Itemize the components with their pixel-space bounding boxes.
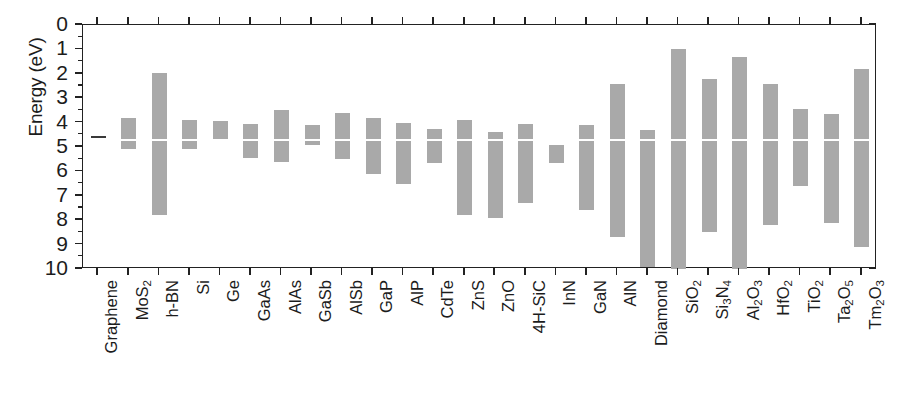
x-tick-mark-top	[219, 17, 221, 24]
y-tick-label: 8	[28, 208, 68, 229]
x-axis-label-diamond: Diamond	[653, 280, 670, 346]
x-tick-mark-top	[96, 17, 98, 24]
reference-line-segment	[457, 139, 472, 141]
x-tick-mark	[219, 268, 221, 275]
bar-gasb	[305, 125, 320, 145]
reference-line-segment	[274, 139, 289, 141]
x-axis-label-sio2: SiO2	[684, 280, 701, 314]
x-axis-label-tio2: TiO2	[806, 280, 823, 312]
bar-al2o3	[732, 57, 747, 269]
x-tick-mark	[768, 268, 770, 275]
reference-line-segment	[366, 139, 381, 141]
y-tick-mark	[75, 145, 82, 147]
x-tick-mark	[616, 268, 618, 275]
bar-alas	[274, 110, 289, 161]
x-axis-label-al2o3: Al2O3	[745, 280, 762, 320]
bar-tm2o3	[854, 69, 869, 247]
x-tick-mark	[493, 268, 495, 275]
x-tick-mark	[127, 268, 129, 275]
y-axis-title: Energy (eV)	[25, 0, 47, 187]
x-axis-label-ge: Ge	[225, 280, 242, 302]
x-tick-mark	[96, 268, 98, 275]
reference-line-segment	[518, 139, 533, 141]
x-tick-mark	[249, 268, 251, 275]
x-tick-mark-top	[249, 17, 251, 24]
x-tick-mark-top	[799, 17, 801, 24]
bar-inn	[549, 145, 564, 163]
y-tick-mark	[75, 243, 82, 245]
x-tick-mark	[555, 268, 557, 275]
x-tick-mark-top	[829, 17, 831, 24]
x-tick-mark	[432, 268, 434, 275]
x-tick-mark	[310, 268, 312, 275]
x-tick-mark-top	[585, 17, 587, 24]
x-axis-label-4h-sic: 4H-SiC	[531, 280, 548, 333]
x-axis-label-cdte: CdTe	[439, 280, 456, 319]
x-tick-mark-top	[280, 17, 282, 24]
plot-area	[82, 24, 876, 268]
reference-line-segment	[824, 139, 839, 141]
x-tick-mark	[829, 268, 831, 275]
x-axis-label-hfo2: HfO2	[775, 280, 792, 316]
y-tick-mark	[75, 96, 82, 98]
x-tick-mark	[860, 268, 862, 275]
bar-graphene	[91, 136, 106, 138]
y-tick-mark	[75, 72, 82, 74]
bar-si3n4	[702, 79, 717, 233]
x-tick-mark	[341, 268, 343, 275]
y-tick-label: 10	[28, 257, 68, 278]
x-tick-mark	[677, 268, 679, 275]
bar-h-bn	[152, 73, 167, 216]
bar-hfo2	[763, 84, 778, 226]
x-tick-mark	[402, 268, 404, 275]
x-tick-mark-top	[860, 17, 862, 24]
reference-line-segment	[671, 139, 686, 141]
x-axis-label-alas: AlAs	[287, 280, 304, 314]
y-tick-mark	[75, 121, 82, 123]
x-tick-mark-top	[432, 17, 434, 24]
x-tick-mark	[646, 268, 648, 275]
bar-gap	[366, 118, 381, 174]
reference-line-segment	[732, 139, 747, 141]
x-tick-mark	[799, 268, 801, 275]
reference-line-segment	[763, 139, 778, 141]
y-tick-mark	[75, 48, 82, 50]
bar-mos2	[121, 118, 136, 150]
y-tick-mark	[75, 23, 82, 25]
reference-line-segment	[549, 139, 564, 141]
x-tick-mark	[707, 268, 709, 275]
y-tick-mark	[75, 170, 82, 172]
x-axis-label-zno: ZnO	[500, 280, 517, 312]
x-axis-label-inn: InN	[561, 280, 578, 306]
x-tick-mark-top	[555, 17, 557, 24]
bar-zno	[488, 132, 503, 217]
reference-line-segment	[182, 139, 197, 141]
x-tick-mark	[738, 268, 740, 275]
bar-ta2o5	[824, 114, 839, 223]
x-tick-mark-top	[768, 17, 770, 24]
x-tick-mark	[371, 268, 373, 275]
bar-sio2	[671, 49, 686, 269]
reference-line-segment	[213, 139, 228, 141]
x-tick-mark-top	[310, 17, 312, 24]
x-tick-mark	[463, 268, 465, 275]
x-axis-label-graphene: Graphene	[103, 280, 120, 353]
reference-line-segment	[579, 139, 594, 141]
reference-line-segment	[396, 139, 411, 141]
x-tick-mark-top	[646, 17, 648, 24]
bar-zns	[457, 120, 472, 215]
x-tick-mark	[188, 268, 190, 275]
reference-line-segment	[335, 139, 350, 141]
x-axis-label-gasb: GaSb	[317, 280, 334, 322]
reference-line-segment	[610, 139, 625, 141]
reference-line-segment	[640, 139, 655, 141]
reference-line-segment	[702, 139, 717, 141]
x-tick-mark-top	[127, 17, 129, 24]
x-axis-label-aln: AlN	[622, 280, 639, 307]
x-tick-mark	[585, 268, 587, 275]
x-axis-label-tm2o3: Tm2O3	[867, 280, 884, 329]
y-tick-mark	[75, 218, 82, 220]
bar-si	[182, 120, 197, 149]
bar-alsb	[335, 113, 350, 159]
x-tick-mark-top	[402, 17, 404, 24]
